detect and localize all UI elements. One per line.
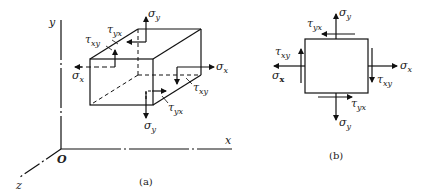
a-sigma-x-right: σx <box>216 60 229 75</box>
b-tau-yx-bottom: τyx <box>351 97 367 112</box>
z-axis <box>20 149 61 177</box>
a-sigma-y-top: σy <box>148 7 161 22</box>
diagram-canvas: y x z O σy τyx τxy σx σx τxy τyx σy (a) … <box>0 0 425 194</box>
a-sigma-y-bottom: σy <box>144 119 157 134</box>
caption-b: (b) <box>329 150 343 161</box>
b-sigma-x-right: σx <box>400 59 413 74</box>
b-sigma-y-top: σy <box>339 6 352 21</box>
box-front-face <box>90 59 153 105</box>
b-sigma-x-left: σx <box>272 69 285 84</box>
b-tau-yx-top: τyx <box>307 17 323 32</box>
z-axis-label: z <box>15 179 22 192</box>
b-sigma-y-bottom: σy <box>339 116 352 131</box>
b-tau-xy-left: τxy <box>275 45 291 60</box>
b-tau-xy-right: τxy <box>377 73 393 88</box>
y-axis-label: y <box>48 16 56 29</box>
stress-diagram: y x z O σy τyx τxy σx σx τxy τyx σy (a) … <box>0 0 425 194</box>
x-axis-label: x <box>225 134 232 147</box>
a-tau-yx-top: τyx <box>107 23 123 38</box>
caption-a: (a) <box>139 176 153 187</box>
a-sigma-x-left: σx <box>72 69 85 84</box>
a-tau-xy-left: τxy <box>85 33 101 48</box>
stress-element-square <box>305 39 368 93</box>
a-tau-yx-bottom: τyx <box>168 101 184 116</box>
figure-a <box>20 17 232 177</box>
origin-label: O <box>57 153 67 166</box>
a-tau-xy-right: τxy <box>193 81 209 96</box>
figure-b <box>274 14 397 120</box>
